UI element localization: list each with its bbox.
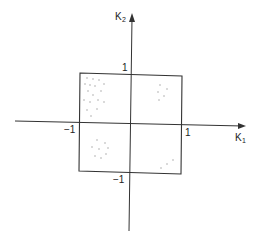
data-point	[103, 101, 104, 102]
tick-y-pos: 1	[122, 62, 128, 73]
data-point	[96, 139, 97, 140]
x-axis-label: K	[235, 132, 242, 143]
data-point	[105, 153, 106, 154]
data-point	[89, 101, 90, 102]
data-point	[84, 83, 85, 84]
data-point	[159, 84, 160, 85]
data-point	[100, 90, 101, 91]
y-axis-arrow-icon	[129, 13, 135, 22]
data-point	[98, 79, 99, 80]
data-point	[94, 85, 95, 86]
y-axis-subscript: 2	[122, 16, 126, 23]
data-point	[163, 95, 164, 96]
tick-x-neg: −1	[64, 124, 76, 135]
data-point	[89, 84, 90, 85]
data-point	[91, 146, 92, 147]
data-point	[87, 90, 88, 91]
x-axis-arrow-icon	[238, 123, 246, 129]
data-point	[98, 148, 99, 149]
data-point	[172, 159, 173, 160]
data-point	[92, 94, 93, 95]
x-axis-subscript: 1	[242, 137, 246, 144]
data-point	[97, 99, 98, 100]
data-point	[157, 91, 158, 92]
data-point	[107, 147, 108, 148]
data-point	[103, 83, 104, 84]
data-point	[92, 78, 93, 79]
k1-k2-diagram: K 2 K 1 −1 1 1 −1	[0, 0, 256, 241]
x-axis	[15, 121, 243, 126]
data-point	[86, 77, 87, 78]
data-point	[90, 115, 91, 116]
data-point	[158, 99, 159, 100]
data-point	[94, 155, 95, 156]
data-point	[86, 109, 87, 110]
y-axis	[129, 18, 132, 231]
tick-x-pos: 1	[185, 127, 191, 138]
data-point	[166, 163, 167, 164]
data-point	[160, 167, 161, 168]
data-point	[166, 88, 167, 89]
data-point	[83, 99, 84, 100]
data-point	[104, 142, 105, 143]
data-point	[100, 157, 101, 158]
data-point	[96, 108, 97, 109]
tick-y-neg: −1	[113, 174, 125, 185]
y-axis-label: K	[115, 11, 122, 22]
